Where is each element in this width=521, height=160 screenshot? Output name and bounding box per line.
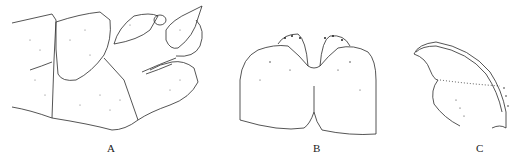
curved-sclerite-illustration — [390, 0, 521, 160]
panel-label-c: C — [476, 142, 483, 154]
stipple-texture — [30, 25, 181, 111]
setae-texture — [455, 87, 508, 116]
terminalia-lateral-illustration — [0, 0, 230, 160]
panel-label-b: B — [313, 142, 320, 154]
panel-c-drawing — [390, 0, 521, 160]
panel-b-drawing — [230, 0, 390, 160]
panel-a-drawing — [0, 0, 230, 160]
setae-texture — [260, 35, 361, 91]
panel-label-a: A — [107, 142, 115, 154]
bilobed-plate-illustration — [230, 0, 390, 160]
